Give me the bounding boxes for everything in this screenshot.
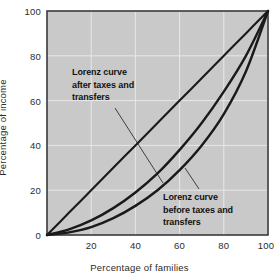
x-tick-60: 60 bbox=[174, 240, 185, 251]
annotation-before-taxes: Lorenz curve before taxes and transfers bbox=[163, 191, 233, 229]
y-tick-60: 60 bbox=[12, 95, 41, 106]
y-axis-title: Percentage of income bbox=[0, 79, 8, 175]
lorenz-curve-figure: 0 20 40 60 80 100 20 40 60 80 100 Percen… bbox=[0, 0, 279, 280]
x-tick-40: 40 bbox=[130, 240, 141, 251]
annotation-after-taxes: Lorenz curve after taxes and transfers bbox=[72, 66, 134, 104]
x-tick-20: 20 bbox=[86, 240, 97, 251]
x-tick-80: 80 bbox=[218, 240, 229, 251]
y-tick-0: 0 bbox=[12, 230, 41, 241]
y-tick-20: 20 bbox=[12, 185, 41, 196]
x-tick-100: 100 bbox=[258, 240, 274, 251]
annotation-after-line-1: Lorenz curve bbox=[72, 66, 134, 79]
chart-canvas bbox=[0, 0, 279, 280]
x-axis-title: Percentage of families bbox=[90, 262, 188, 273]
annotation-after-line-2: after taxes and bbox=[72, 79, 134, 92]
annotation-before-line-3: transfers bbox=[163, 216, 233, 229]
annotation-before-line-2: before taxes and bbox=[163, 204, 233, 217]
y-tick-80: 80 bbox=[12, 50, 41, 61]
y-tick-40: 40 bbox=[12, 140, 41, 151]
annotation-after-line-3: transfers bbox=[72, 91, 134, 104]
y-tick-100: 100 bbox=[12, 6, 41, 17]
annotation-before-line-1: Lorenz curve bbox=[163, 191, 233, 204]
